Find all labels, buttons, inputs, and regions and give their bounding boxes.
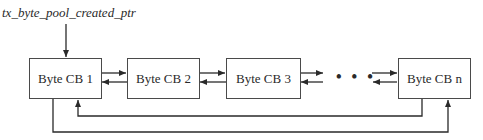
byte-cb-n-node: Byte CB n — [398, 58, 471, 99]
byte-cb-3-node: Byte CB 3 — [226, 58, 301, 99]
byte-cb-3-label: Byte CB 3 — [236, 71, 291, 87]
ellipsis-indicator: • • • — [336, 68, 376, 86]
byte-cb-1-node: Byte CB 1 — [29, 58, 102, 99]
wrap-arrow-cbn-cb1 — [78, 99, 422, 116]
byte-cb-2-node: Byte CB 2 — [127, 58, 200, 99]
byte-cb-2-label: Byte CB 2 — [136, 71, 191, 87]
byte-cb-1-label: Byte CB 1 — [38, 71, 93, 87]
byte-cb-n-label: Byte CB n — [407, 71, 462, 87]
